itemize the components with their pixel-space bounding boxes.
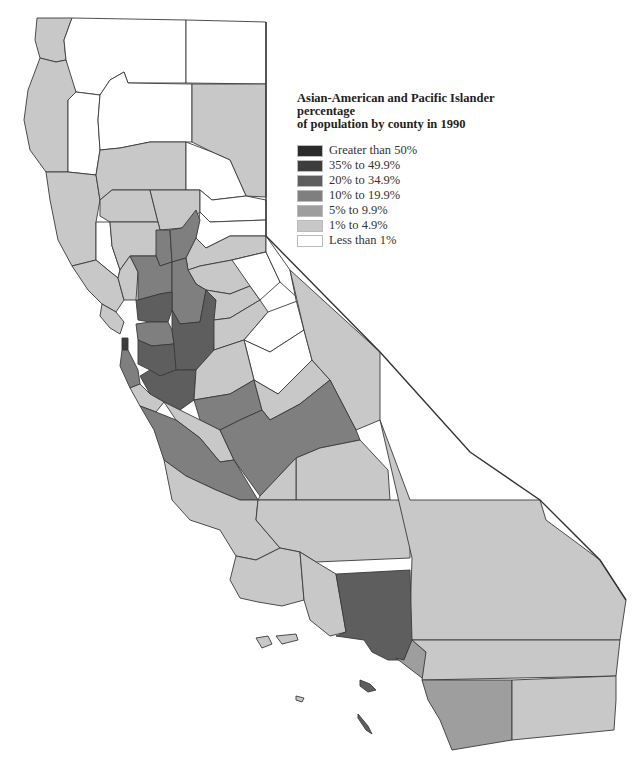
county-imperial bbox=[512, 676, 616, 740]
county-riverside bbox=[412, 640, 620, 680]
island-santa-rosa bbox=[256, 636, 272, 648]
county-san-bernardino bbox=[380, 420, 626, 640]
legend-swatch bbox=[297, 160, 323, 172]
legend-title-line1: Asian-American and Pacific Islander perc… bbox=[297, 92, 537, 118]
county-santa-barbara bbox=[230, 548, 304, 606]
county-san-mateo bbox=[120, 350, 140, 388]
county-shasta bbox=[98, 72, 192, 150]
legend-item: 10% to 19.9% bbox=[297, 188, 537, 203]
legend-label: Greater than 50% bbox=[329, 143, 417, 158]
legend-swatch bbox=[297, 220, 323, 232]
county-trinity bbox=[68, 92, 100, 175]
legend-item: Less than 1% bbox=[297, 233, 537, 248]
island-san-nicolas bbox=[296, 696, 304, 702]
county-los-angeles bbox=[336, 570, 412, 660]
legend-swatch bbox=[297, 235, 323, 247]
legend-label: 35% to 49.9% bbox=[329, 158, 400, 173]
legend-item: Greater than 50% bbox=[297, 143, 537, 158]
legend-label: 1% to 4.9% bbox=[329, 218, 388, 233]
legend-swatch bbox=[297, 145, 323, 157]
legend-item: 35% to 49.9% bbox=[297, 158, 537, 173]
legend-label: Less than 1% bbox=[329, 233, 396, 248]
legend-swatch bbox=[297, 190, 323, 202]
legend-label: 20% to 34.9% bbox=[329, 173, 400, 188]
legend-item: 5% to 9.9% bbox=[297, 203, 537, 218]
county-sutter bbox=[156, 230, 172, 266]
legend-item: 20% to 34.9% bbox=[297, 173, 537, 188]
county-glenn bbox=[100, 190, 158, 222]
legend-label: 5% to 9.9% bbox=[329, 203, 388, 218]
legend-title: Asian-American and Pacific Islander perc… bbox=[297, 92, 537, 131]
legend-item: 1% to 4.9% bbox=[297, 218, 537, 233]
legend-swatch bbox=[297, 175, 323, 187]
county-mendocino bbox=[46, 172, 100, 266]
legend-swatch bbox=[297, 205, 323, 217]
map-legend: Asian-American and Pacific Islander perc… bbox=[297, 92, 537, 248]
island-santa-cruz bbox=[276, 634, 298, 644]
legend-title-line2: of population by county in 1990 bbox=[297, 118, 537, 131]
county-alameda bbox=[138, 340, 176, 376]
county-san-diego bbox=[422, 680, 512, 750]
island-catalina bbox=[360, 680, 376, 692]
county-modoc bbox=[186, 20, 266, 84]
county-san-francisco bbox=[122, 338, 128, 350]
island-san-clemente bbox=[358, 714, 372, 734]
legend-label: 10% to 19.9% bbox=[329, 188, 400, 203]
